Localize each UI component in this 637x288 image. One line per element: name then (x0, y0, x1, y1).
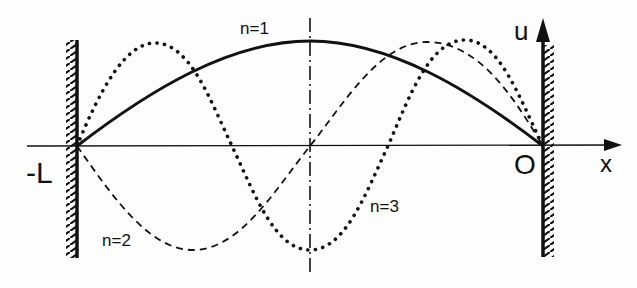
u-axis (536, 18, 550, 42)
label-n2: n=2 (102, 231, 131, 250)
standing-wave-diagram: n=1 n=2 n=3 -L O x u (0, 0, 637, 288)
label-x-axis: x (600, 150, 612, 177)
label-n3: n=3 (370, 197, 399, 216)
left-wall (66, 40, 77, 258)
label-u-axis: u (514, 16, 528, 46)
right-wall (543, 38, 554, 257)
label-left-end: -L (26, 156, 53, 189)
label-origin: O (514, 149, 536, 180)
label-n1: n=1 (240, 19, 269, 38)
